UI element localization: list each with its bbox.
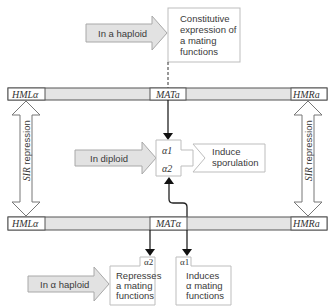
top-mat-label: MATa	[155, 89, 180, 100]
top-output-line-3: a mating	[180, 35, 216, 46]
matalpha-to-complex-line	[169, 183, 187, 217]
sporulation-line-1: Induce	[212, 146, 241, 157]
top-output-box: Constitutive expression of a mating func…	[168, 8, 240, 62]
right-sir-repression-arrow: SIR repression	[294, 101, 322, 216]
arrowhead-down-icon	[145, 249, 155, 256]
alpha2-tab-label: α2	[144, 257, 153, 267]
sporulation-line-2: sporulation	[212, 157, 258, 168]
alpha2-line-3: functions	[116, 290, 154, 301]
top-output-line-2: expression of	[180, 24, 237, 35]
top-hml-label: HMLα	[11, 89, 39, 100]
left-sir-repression-arrow: SIR repression	[12, 101, 40, 216]
left-sir-label: SIR repression	[21, 120, 32, 181]
alpha1-box: α1 Induces α mating functions	[176, 257, 231, 305]
bottom-hml-label: HMLα	[11, 218, 39, 229]
top-chromosome-bar: HMLα MATa HMRa	[8, 88, 327, 100]
complex-alpha2-label: α2	[162, 163, 172, 174]
top-hmr-label: HMRa	[292, 89, 320, 100]
alpha1-line-3: functions	[186, 290, 224, 301]
complex-alpha1-label: α1	[162, 145, 172, 156]
alpha2-box: α2 Represses a mating functions	[110, 257, 162, 305]
alpha-complex-box: α1 α2	[156, 140, 193, 176]
bottom-input-arrow: In α haploid	[28, 267, 109, 301]
arrowhead-down-icon	[182, 249, 192, 256]
bottom-input-label: In α haploid	[40, 279, 89, 290]
mating-type-diagram: In a haploid Constitutive expression of …	[0, 0, 332, 307]
diploid-input-label: In diploid	[90, 153, 128, 164]
bottom-mat-label: MATα	[155, 218, 182, 229]
top-output-line-4: functions	[180, 46, 218, 57]
arrowhead-down-icon	[163, 133, 173, 140]
bottom-chromosome-bar: HMLα MATα HMRa	[8, 217, 327, 230]
alpha1-tab-label: α1	[180, 257, 189, 267]
top-input-arrow: In a haploid	[86, 16, 167, 50]
top-output-line-1: Constitutive	[180, 13, 230, 24]
diploid-input-arrow: In diploid	[75, 142, 156, 174]
arrowhead-up-icon	[164, 177, 174, 184]
sporulation-box: Induce sporulation	[193, 144, 265, 172]
top-input-label: In a haploid	[98, 28, 147, 39]
bottom-hmr-label: HMRa	[292, 218, 320, 229]
right-sir-label: SIR repression	[303, 120, 314, 181]
